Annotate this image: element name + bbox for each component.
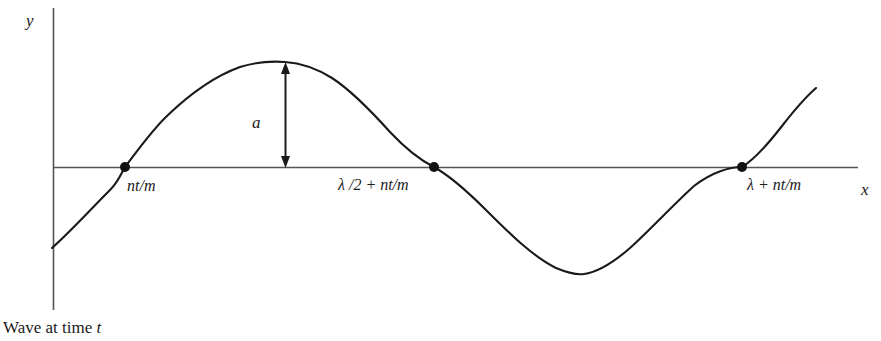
- axis-label-x: x: [861, 181, 869, 198]
- wave-plot: [0, 0, 881, 341]
- wave-figure: y x a nt/m λ /2 + nt/m λ + nt/m Wave at …: [0, 0, 881, 341]
- zero-crossing-label-3: λ + nt/m: [747, 177, 801, 193]
- amplitude-arrow-head-up: [281, 62, 290, 74]
- figure-caption-text: Wave at time: [3, 318, 97, 337]
- figure-caption-variable: t: [97, 318, 102, 337]
- zero-crossing-dot-2: [429, 162, 439, 172]
- zero-crossing-dot-3: [737, 162, 747, 172]
- zero-crossing-label-1: nt/m: [127, 178, 155, 194]
- amplitude-arrow-head-down: [281, 156, 290, 168]
- figure-caption: Wave at time t: [3, 318, 101, 338]
- zero-crossing-label-2: λ /2 + nt/m: [338, 177, 409, 193]
- amplitude-label: a: [252, 114, 261, 131]
- zero-crossing-dot-1: [120, 162, 130, 172]
- axis-label-y: y: [26, 12, 34, 29]
- amplitude-arrow: [281, 62, 290, 168]
